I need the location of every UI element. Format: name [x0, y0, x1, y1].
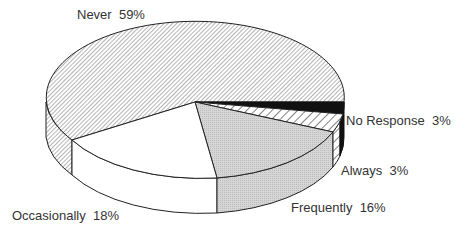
label-never: Never 59% [77, 7, 145, 22]
label-frequently: Frequently 16% [291, 200, 386, 215]
label-occasionally: Occasionally 18% [12, 208, 119, 223]
label-always: Always 3% [341, 163, 408, 178]
label-no-response: No Response 3% [346, 113, 451, 128]
